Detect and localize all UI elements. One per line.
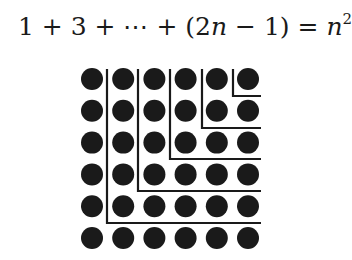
dot xyxy=(81,68,103,90)
dot xyxy=(175,100,197,122)
dot xyxy=(143,195,165,217)
dot xyxy=(237,100,259,122)
dot xyxy=(175,68,197,90)
dot xyxy=(206,132,228,154)
dot xyxy=(175,195,197,217)
dot xyxy=(175,227,197,249)
dot xyxy=(206,100,228,122)
dot xyxy=(206,163,228,185)
dot xyxy=(143,163,165,185)
dot xyxy=(112,68,134,90)
dot xyxy=(81,163,103,185)
dot xyxy=(81,195,103,217)
dot xyxy=(175,163,197,185)
dot xyxy=(112,132,134,154)
dot xyxy=(237,68,259,90)
dot xyxy=(237,227,259,249)
dot xyxy=(206,68,228,90)
dot xyxy=(206,227,228,249)
dot xyxy=(237,132,259,154)
dot xyxy=(112,195,134,217)
dot xyxy=(112,163,134,185)
dot xyxy=(206,195,228,217)
dot xyxy=(81,100,103,122)
dot xyxy=(237,195,259,217)
dot xyxy=(81,132,103,154)
dot xyxy=(175,132,197,154)
dot xyxy=(81,227,103,249)
dot xyxy=(112,227,134,249)
dot xyxy=(112,100,134,122)
dot xyxy=(237,163,259,185)
dot xyxy=(143,132,165,154)
dot xyxy=(143,68,165,90)
equation-rhs-exponent: 2 xyxy=(343,10,352,28)
dot xyxy=(143,100,165,122)
dot xyxy=(143,227,165,249)
